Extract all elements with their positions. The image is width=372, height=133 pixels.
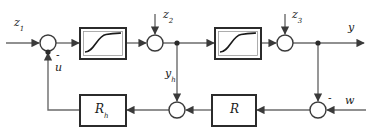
label-z1: z1	[14, 17, 24, 31]
branch-dot-y	[315, 40, 320, 45]
wire-rh-to-sum1-feedback	[48, 53, 80, 110]
label-block-r: R	[230, 103, 239, 115]
label-z3: z3	[292, 9, 302, 23]
label-w: w	[345, 95, 354, 106]
label-z2-subscript: 2	[169, 17, 173, 25]
sum-junction-yh	[169, 102, 185, 118]
branch-dot-u	[45, 49, 50, 54]
sum-junction-w	[310, 102, 326, 118]
label-block-rh-subscript: h	[104, 112, 109, 120]
label-yh-subscript: h	[171, 76, 176, 84]
sum-junction-z2	[147, 35, 163, 51]
minus-sign-u-input: -	[56, 50, 60, 60]
sum-junction-z1-u	[40, 35, 56, 51]
label-z2: z2	[163, 9, 173, 23]
label-z3-subscript: 3	[298, 17, 302, 25]
minus-sign-w-input: -	[328, 93, 332, 103]
label-z1-subscript: 1	[20, 25, 24, 33]
label-block-rh: Rh	[95, 103, 109, 118]
block-saturation-forward-2	[215, 28, 261, 59]
label-u: u	[55, 62, 62, 73]
block-saturation-forward-1	[80, 28, 126, 59]
branch-dot-yh	[174, 40, 179, 45]
label-y-output: y	[348, 22, 354, 33]
sum-junction-z3	[277, 35, 293, 51]
block-diagram: z1 z2 z3 y u yh w Rh R - -	[0, 0, 372, 133]
label-yh: yh	[165, 68, 176, 82]
